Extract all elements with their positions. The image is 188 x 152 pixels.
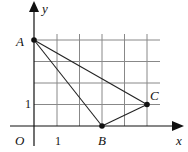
point-a — [31, 37, 37, 43]
y-axis-label: y — [42, 2, 48, 15]
point-a-label: A — [16, 35, 24, 48]
y-axis-arrow-icon — [29, 1, 39, 12]
point-c-label: C — [150, 89, 159, 102]
x-axis-label: x — [176, 134, 182, 147]
coordinate-diagram: y x O 1 1 A B C — [0, 0, 188, 152]
origin-label: O — [15, 134, 24, 147]
x-unit-label: 1 — [55, 135, 61, 147]
point-b-label: B — [98, 134, 106, 147]
point-c — [144, 102, 150, 108]
grid-and-triangle — [0, 0, 188, 152]
y-unit-label: 1 — [25, 98, 31, 110]
x-axis-arrow-icon — [172, 121, 184, 131]
point-b — [99, 123, 105, 129]
grid-lines — [34, 34, 160, 126]
axes — [10, 12, 172, 146]
